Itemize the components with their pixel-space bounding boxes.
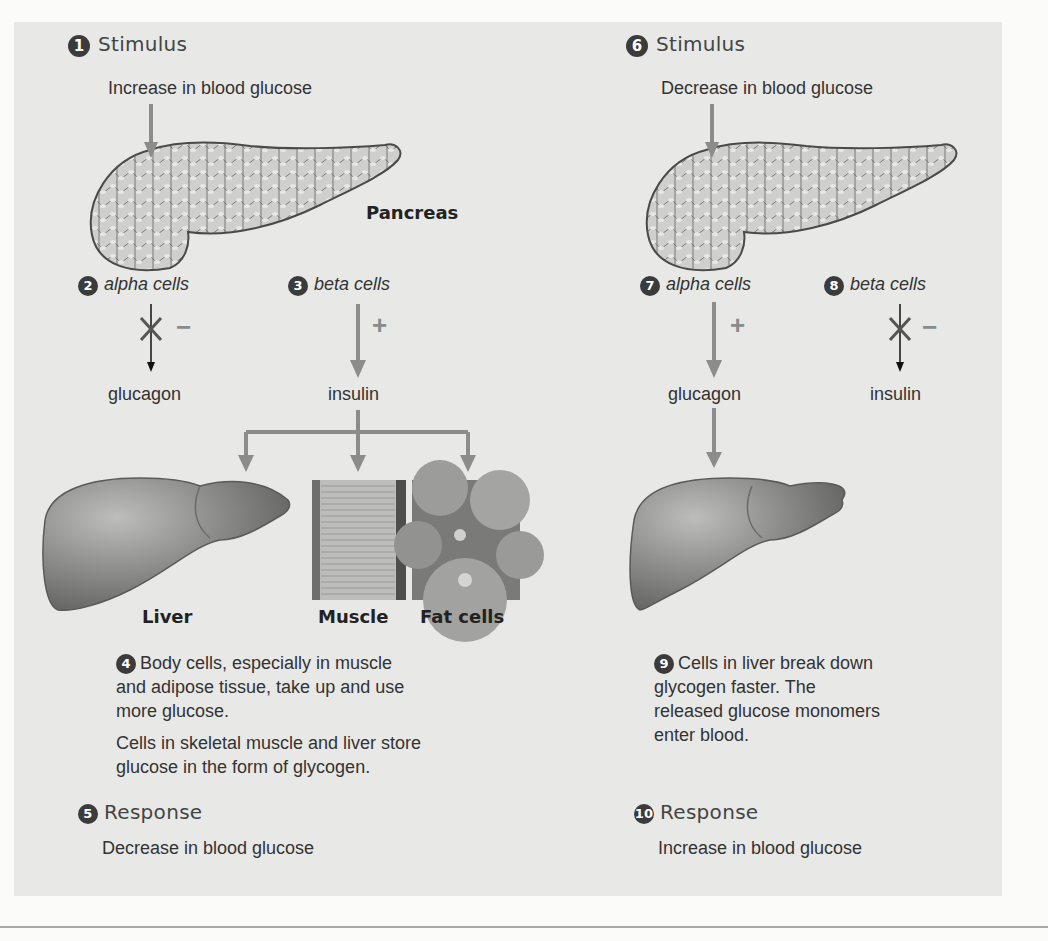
step-badge: 7	[640, 276, 660, 296]
arrow-beta-right-blocked	[890, 304, 910, 372]
muscle-label: Muscle	[318, 606, 389, 627]
pancreas-left	[91, 143, 401, 270]
step-badge: 8	[824, 276, 844, 296]
glucagon-right-label: glucagon	[668, 382, 741, 406]
response-right-text: Increase in blood glucose	[658, 836, 862, 860]
step-5-response-heading: 5Response	[78, 800, 202, 824]
liver-label: Liver	[142, 606, 192, 627]
liver-left	[43, 478, 290, 610]
step-10-response-heading: 10Response	[634, 800, 758, 824]
step-badge: 10	[634, 804, 654, 824]
step-badge: 3	[288, 276, 308, 296]
stimulate-sign: +	[730, 310, 745, 341]
step-9-effect-text: 9Cells in liver break down glycogen fast…	[654, 651, 884, 747]
step-1-stimulus-heading: 1Stimulus	[68, 32, 187, 57]
arrow-alpha-left-blocked	[141, 304, 161, 372]
liver-right	[630, 478, 845, 610]
inhibit-sign: −	[176, 312, 191, 343]
step-8-beta-cells: 8beta cells	[824, 274, 926, 296]
pancreas-right	[647, 143, 957, 270]
step-badge: 9	[654, 654, 674, 674]
insulin-left-label: insulin	[328, 382, 379, 406]
step-badge: 1	[68, 35, 90, 57]
step-7-alpha-cells: 7alpha cells	[640, 274, 751, 296]
muscle-image	[312, 480, 406, 600]
response-left-text: Decrease in blood glucose	[102, 836, 314, 860]
step-2-alpha-cells: 2alpha cells	[78, 274, 189, 296]
insulin-right-label: insulin	[870, 382, 921, 406]
inhibit-sign: −	[922, 312, 937, 343]
step-badge: 6	[626, 35, 648, 57]
step-badge: 4	[116, 654, 136, 674]
stimulus-right-text: Decrease in blood glucose	[661, 76, 873, 100]
step-4-storage-text: Cells in skeletal muscle and liver store…	[116, 731, 426, 779]
step-6-stimulus-heading: 6Stimulus	[626, 32, 745, 57]
step-badge: 5	[78, 804, 98, 824]
step-3-beta-cells: 3beta cells	[288, 274, 390, 296]
step-badge: 2	[78, 276, 98, 296]
step-4-effect-text: 4Body cells, especially in muscle and ad…	[116, 651, 416, 723]
fat-cells-label: Fat cells	[420, 606, 504, 627]
stimulate-sign: +	[372, 310, 387, 341]
stimulus-left-text: Increase in blood glucose	[108, 76, 312, 100]
glucagon-left-label: glucagon	[108, 382, 181, 406]
arrow-beta-left	[350, 304, 366, 378]
pancreas-label: Pancreas	[366, 202, 458, 223]
